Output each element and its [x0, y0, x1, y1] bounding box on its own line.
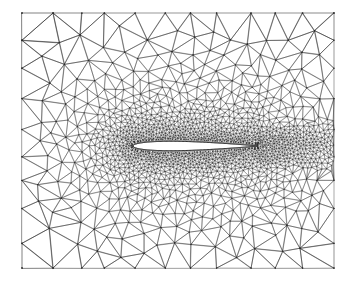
airfoil-mesh-canvas: [0, 0, 355, 288]
mesh-figure: Computational fluid dynamics grid: Delau…: [0, 0, 355, 288]
